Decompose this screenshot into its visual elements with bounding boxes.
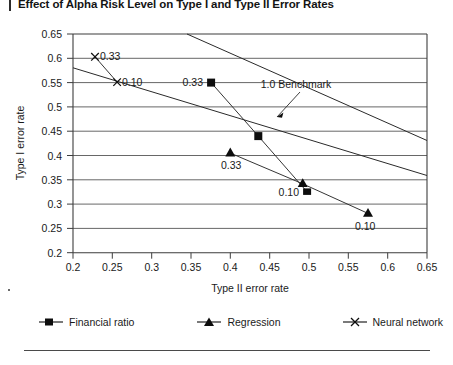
legend-label: Regression xyxy=(227,316,280,328)
x-axis-ticks xyxy=(73,253,427,259)
x-tick-label: 0.3 xyxy=(144,261,159,273)
x-axis-tick-labels: 0.2 0.25 0.3 0.35 0.4 0.45 0.5 0.55 0.6 … xyxy=(66,261,438,273)
benchmark-reference-lines xyxy=(73,34,427,176)
x-tick-label: 0.55 xyxy=(338,261,359,273)
point-label: 0.33 xyxy=(221,159,242,171)
y-tick-label: 0.55 xyxy=(42,77,63,89)
scatter-line-chart: 0.65 0.6 0.55 0.5 0.45 0.4 0.35 0.3 0.25… xyxy=(0,0,453,312)
y-tick-label: 0.2 xyxy=(47,247,62,259)
square-marker-icon xyxy=(39,316,63,328)
point-label: 0.33 xyxy=(100,50,121,62)
point-label: 0.10 xyxy=(279,186,300,198)
y-tick-label: 0.4 xyxy=(47,150,62,162)
x-tick-label: 0.65 xyxy=(417,261,438,273)
y-tick-label: 0.65 xyxy=(42,28,63,40)
y-tick-label: 0.3 xyxy=(47,198,62,210)
figure: Effect of Alpha Risk Level on Type I and… xyxy=(0,0,453,365)
point-label: 0.10 xyxy=(355,220,376,232)
page-artifact-dot xyxy=(8,289,10,291)
x-marker-icon xyxy=(343,316,367,328)
x-tick-label: 0.2 xyxy=(66,261,81,273)
benchmark-annotation-label: 1.0 Benchmark xyxy=(261,78,332,90)
point-label: 0.10 xyxy=(122,76,143,88)
point-label: 0.33 xyxy=(183,76,204,88)
square-marker xyxy=(207,79,215,87)
triangle-marker xyxy=(225,148,235,157)
square-marker xyxy=(254,132,262,140)
legend-item-financial-ratio[interactable]: Financial ratio xyxy=(39,316,134,328)
x-marker xyxy=(91,53,99,61)
x-tick-label: 0.25 xyxy=(102,261,123,273)
footer-divider xyxy=(24,350,430,351)
y-axis-tick-labels: 0.65 0.6 0.55 0.5 0.45 0.4 0.35 0.3 0.25… xyxy=(42,28,63,259)
x-tick-label: 0.5 xyxy=(302,261,317,273)
y-axis-title: Type I error rate xyxy=(14,105,26,180)
legend-label: Financial ratio xyxy=(69,316,134,328)
x-tick-label: 0.4 xyxy=(223,261,238,273)
y-tick-label: 0.5 xyxy=(47,101,62,113)
x-tick-label: 0.45 xyxy=(259,261,280,273)
legend-item-neural-network[interactable]: Neural network xyxy=(343,316,444,328)
legend-label: Neural network xyxy=(373,316,444,328)
chart-legend: Financial ratio Regression Neural networ… xyxy=(0,312,453,332)
benchmark-annotation-arrow xyxy=(277,92,300,118)
legend-item-regression[interactable]: Regression xyxy=(197,316,280,328)
x-axis-title: Type II error rate xyxy=(211,282,289,294)
y-axis-ticks xyxy=(67,34,73,253)
x-tick-label: 0.6 xyxy=(380,261,395,273)
y-tick-label: 0.6 xyxy=(47,52,62,64)
y-tick-label: 0.45 xyxy=(42,125,63,137)
x-tick-label: 0.35 xyxy=(181,261,202,273)
triangle-marker-icon xyxy=(197,316,221,328)
square-marker xyxy=(303,188,311,195)
y-tick-label: 0.35 xyxy=(42,174,63,186)
y-tick-label: 0.25 xyxy=(42,222,63,234)
